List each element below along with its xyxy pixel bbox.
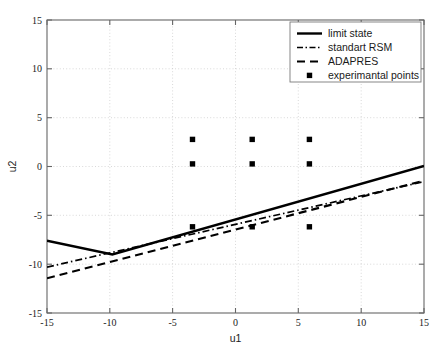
data-point	[190, 224, 195, 229]
x-tick-label: -10	[103, 317, 116, 328]
x-tick-label: 10	[356, 317, 366, 328]
y-tick-labels: 15 10 5 0 -5 -10 -15	[29, 15, 42, 319]
data-point	[190, 137, 195, 142]
y-tick-label: -5	[34, 210, 42, 221]
y-tick-label: -10	[29, 259, 42, 270]
legend-swatch-marker-icon	[307, 73, 312, 78]
y-tick-label: 5	[37, 112, 42, 123]
legend-label: limit state	[328, 27, 373, 39]
x-tick-label: -5	[168, 317, 176, 328]
data-point	[307, 137, 312, 142]
y-axis-title: u2	[6, 161, 18, 173]
x-tick-label: -15	[40, 317, 53, 328]
chart-canvas: -15 -10 -5 0 5 10 15 15 10 5 0 -5 -10 -1…	[0, 0, 442, 357]
x-tick-label: 15	[419, 317, 429, 328]
x-tick-label: 5	[296, 317, 301, 328]
legend-label: standart RSM	[328, 41, 392, 53]
data-point	[190, 161, 195, 166]
data-point	[307, 161, 312, 166]
y-tick-label: 10	[32, 63, 42, 74]
legend-label: ADAPRES	[328, 55, 378, 67]
legend-label: experimantal points	[328, 69, 419, 81]
y-tick-label: 0	[37, 161, 42, 172]
data-point	[250, 161, 255, 166]
x-tick-label: 0	[233, 317, 238, 328]
y-tick-label: 15	[32, 15, 42, 26]
legend[interactable]: limit state standart RSM ADAPRES experim…	[290, 22, 421, 82]
figure-container: -15 -10 -5 0 5 10 15 15 10 5 0 -5 -10 -1…	[0, 0, 442, 357]
data-point	[250, 137, 255, 142]
x-axis-title: u1	[230, 332, 242, 344]
data-point	[250, 224, 255, 229]
y-tick-label: -15	[29, 308, 42, 319]
data-point	[307, 224, 312, 229]
x-tick-labels: -15 -10 -5 0 5 10 15	[40, 317, 429, 328]
